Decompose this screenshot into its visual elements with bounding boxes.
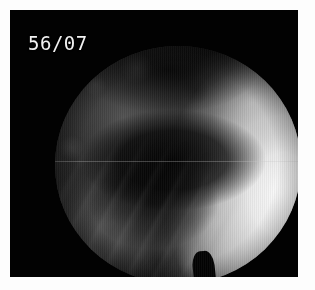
vignette-layer — [55, 46, 298, 277]
screenshot-root: 56/07 — [0, 0, 315, 290]
overlay-counter-text: 56/07 — [28, 34, 88, 53]
video-frame: 56/07 — [10, 10, 298, 277]
scope-field-of-view — [55, 46, 298, 277]
